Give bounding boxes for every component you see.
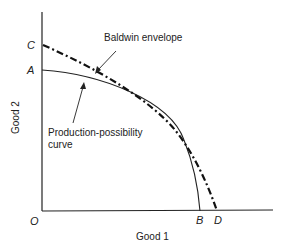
point-label-c: C: [27, 39, 35, 51]
x-axis-label: Good 1: [136, 231, 169, 242]
ppc-annotation-line2: curve: [48, 139, 73, 150]
y-axis-label: Good 2: [10, 101, 21, 134]
x-axis: [42, 210, 273, 211]
envelope-pointer: [98, 51, 116, 70]
ppc-pointer: [73, 87, 83, 123]
origin-label: O: [30, 215, 39, 227]
point-label-d: D: [214, 214, 222, 226]
ppc-annotation-line1: Production-possibility: [48, 127, 143, 138]
point-label-b: B: [196, 214, 203, 226]
envelope-annotation: Baldwin envelope: [104, 32, 183, 43]
diagram: C A O B D Good 1 Good 2 Baldwin envelope…: [0, 0, 288, 252]
point-label-a: A: [26, 64, 34, 76]
ppc-arrowhead-icon: [80, 82, 86, 89]
